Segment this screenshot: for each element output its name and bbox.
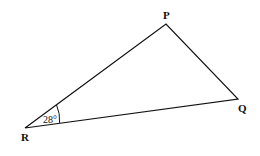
angle-r-label: 28° bbox=[43, 114, 57, 125]
triangle-diagram: 28° P Q R bbox=[0, 0, 260, 156]
vertex-r-label: R bbox=[21, 131, 30, 143]
vertex-p-label: P bbox=[163, 9, 170, 21]
vertex-q-label: Q bbox=[238, 102, 247, 114]
triangle-pqr bbox=[25, 24, 238, 128]
